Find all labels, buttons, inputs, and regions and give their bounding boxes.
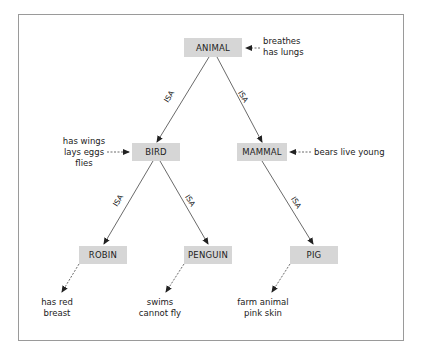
node-pig-label: PIG: [307, 250, 322, 260]
note-animal-line-2: has lungs: [263, 47, 304, 58]
note-penguin-line-1: swims: [130, 297, 190, 308]
note-bird: has wings lays eggs flies: [58, 136, 110, 169]
edge-bird-penguin: [160, 161, 208, 244]
prop-edge-robin: [62, 264, 79, 292]
node-bird-label: BIRD: [145, 147, 167, 157]
node-robin-label: ROBIN: [89, 250, 117, 260]
note-bird-line-3: flies: [58, 158, 110, 169]
node-penguin-label: PENGUIN: [188, 250, 228, 260]
note-bird-line-2: lays eggs: [58, 147, 110, 158]
node-robin: ROBIN: [79, 246, 127, 264]
note-animal-line-1: breathes: [263, 36, 304, 47]
node-animal: ANIMAL: [184, 38, 242, 57]
note-mammal-line-1: bears live young: [314, 147, 385, 158]
prop-edge-pig: [272, 264, 290, 292]
note-pig-line-1: farm animal: [228, 297, 298, 308]
edge-mammal-pig: [262, 161, 313, 244]
node-pig: PIG: [290, 246, 338, 264]
node-mammal-label: MAMMAL: [242, 147, 282, 157]
note-robin: has red breast: [30, 297, 84, 319]
note-pig: farm animal pink skin: [228, 297, 298, 319]
note-pig-line-2: pink skin: [228, 308, 298, 319]
note-bird-line-1: has wings: [58, 136, 110, 147]
note-mammal: bears live young: [314, 147, 385, 158]
note-animal: breathes has lungs: [263, 36, 304, 58]
node-penguin: PENGUIN: [184, 246, 232, 264]
node-bird: BIRD: [132, 143, 180, 161]
node-mammal: MAMMAL: [237, 143, 287, 161]
note-robin-line-1: has red: [30, 297, 84, 308]
node-animal-label: ANIMAL: [196, 43, 230, 53]
note-penguin-line-2: cannot fly: [130, 308, 190, 319]
note-robin-line-2: breast: [30, 308, 84, 319]
prop-edge-penguin: [166, 264, 184, 292]
note-penguin: swims cannot fly: [130, 297, 190, 319]
